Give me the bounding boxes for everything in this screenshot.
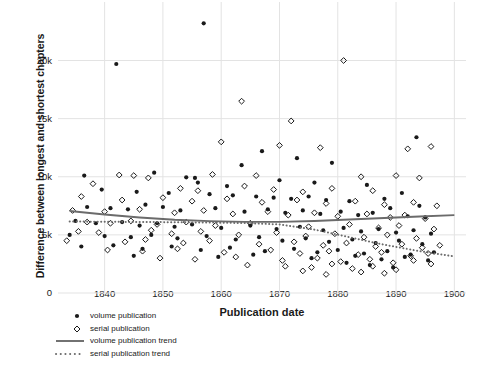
data-point-serial	[294, 197, 300, 203]
data-point-serial	[137, 206, 143, 212]
data-point-serial	[300, 189, 306, 195]
data-point-volume	[327, 240, 331, 244]
legend-item-label: volume publication	[90, 310, 156, 322]
legend-item-label: serial publication trend	[90, 348, 170, 360]
data-point-serial	[224, 196, 230, 202]
data-point-volume	[359, 229, 363, 233]
data-point-volume	[318, 212, 322, 216]
data-point-volume	[257, 235, 261, 239]
data-point-volume	[411, 228, 415, 232]
data-point-volume	[193, 176, 197, 180]
data-point-volume	[382, 197, 386, 201]
data-point-volume	[307, 194, 311, 198]
data-point-serial	[268, 247, 274, 253]
data-point-serial	[352, 198, 358, 204]
data-point-volume	[228, 246, 232, 250]
data-point-volume	[403, 255, 407, 259]
data-point-serial	[338, 259, 344, 265]
data-point-volume	[205, 234, 209, 238]
data-point-volume	[170, 244, 174, 248]
data-point-volume	[108, 206, 112, 210]
data-point-serial	[78, 194, 84, 200]
data-point-serial	[131, 173, 137, 179]
data-point-volume	[309, 256, 313, 260]
legend-dotted-line-icon	[44, 349, 90, 359]
data-point-serial	[245, 262, 251, 268]
data-point-volume	[82, 173, 86, 177]
data-point-serial	[201, 208, 207, 214]
data-point-serial	[297, 251, 303, 257]
data-point-volume	[143, 203, 147, 207]
data-point-serial	[122, 239, 128, 245]
chart-container: Difference between longest and shortest …	[0, 0, 489, 368]
data-point-volume	[175, 236, 179, 240]
data-point-serial	[344, 240, 350, 246]
data-point-volume	[202, 21, 206, 25]
data-point-serial	[242, 183, 248, 189]
data-point-serial	[367, 256, 373, 262]
data-point-serial	[431, 226, 437, 232]
data-point-volume	[429, 232, 433, 236]
data-point-serial	[347, 222, 353, 228]
data-point-serial	[414, 235, 420, 241]
data-point-volume	[388, 206, 392, 210]
data-point-serial	[411, 199, 417, 205]
data-point-volume	[260, 149, 264, 153]
data-point-serial	[370, 188, 376, 194]
chart-legend: volume publicationserial publicationvolu…	[44, 310, 177, 360]
data-point-volume	[272, 196, 276, 200]
data-point-serial	[105, 247, 111, 253]
data-point-serial	[349, 266, 355, 272]
data-point-volume	[172, 225, 176, 229]
data-point-serial	[326, 248, 332, 254]
data-point-serial	[323, 272, 329, 278]
data-point-serial	[239, 98, 245, 104]
data-point-serial	[358, 269, 364, 275]
data-point-volume	[344, 261, 348, 265]
data-point-volume	[394, 230, 398, 234]
legend-open-diamond-icon	[44, 324, 90, 334]
data-point-serial	[195, 188, 201, 194]
data-point-serial	[300, 268, 306, 274]
data-point-volume	[365, 183, 369, 187]
data-point-volume	[336, 248, 340, 252]
data-point-serial	[291, 239, 297, 245]
data-point-volume	[135, 190, 139, 194]
data-point-volume	[263, 249, 267, 253]
data-point-volume	[234, 237, 238, 241]
data-point-volume	[295, 156, 299, 160]
data-point-serial	[145, 175, 151, 181]
data-point-serial	[271, 187, 277, 193]
data-point-serial	[312, 210, 318, 216]
data-point-serial	[180, 240, 186, 246]
legend-item: serial publication	[44, 323, 177, 336]
data-point-volume	[167, 191, 171, 195]
data-point-volume	[292, 247, 296, 251]
data-point-serial	[416, 175, 422, 181]
data-point-volume	[289, 197, 293, 201]
data-point-serial	[282, 263, 288, 269]
data-point-volume	[103, 234, 107, 238]
data-point-volume	[225, 184, 229, 188]
data-point-serial	[329, 185, 335, 191]
data-point-volume	[312, 180, 316, 184]
data-point-volume	[251, 253, 255, 257]
data-point-volume	[385, 249, 389, 253]
data-point-serial	[198, 228, 204, 234]
data-point-volume	[400, 191, 404, 195]
data-point-volume	[213, 206, 217, 210]
data-point-volume	[301, 208, 305, 212]
data-point-serial	[280, 258, 286, 264]
data-point-serial	[64, 238, 70, 244]
data-point-serial	[148, 227, 154, 233]
data-point-volume	[79, 244, 83, 248]
data-point-volume	[371, 211, 375, 215]
data-point-volume	[362, 251, 366, 255]
legend-item: serial publication trend	[44, 348, 177, 361]
data-point-serial	[253, 173, 259, 179]
data-point-volume	[242, 210, 246, 214]
data-point-serial	[157, 255, 163, 261]
data-point-serial	[329, 261, 335, 267]
data-point-serial	[320, 242, 326, 248]
data-point-volume	[280, 239, 284, 243]
